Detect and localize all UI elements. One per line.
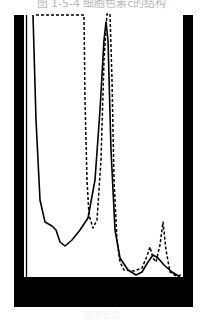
right-frame-bar: [183, 15, 193, 307]
bottom-frame-bar: [14, 277, 193, 307]
figure-footnote: 吸收光谱: [0, 308, 203, 321]
left-frame-bar: [14, 15, 24, 307]
solid-series-line: [33, 15, 180, 277]
